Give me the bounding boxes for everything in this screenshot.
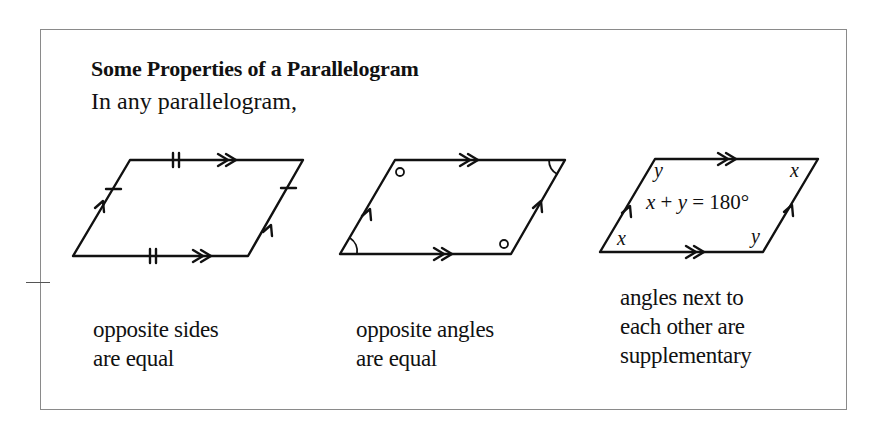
label-y-top-left: y: [652, 159, 663, 182]
label-y-bottom-right: y: [749, 225, 760, 248]
caption-line: supplementary: [620, 341, 752, 370]
caption-supplementary: angles next to each other are supplement…: [620, 283, 752, 370]
caption-line: opposite angles: [356, 315, 494, 344]
label-x-bottom-left: x: [616, 227, 626, 249]
caption-opposite-angles: opposite angles are equal: [356, 315, 494, 373]
parallelogram-angles-diagram: [340, 154, 565, 260]
equation-text: x + y = 180°: [645, 190, 749, 214]
caption-opposite-sides: opposite sides are equal: [93, 315, 219, 373]
caption-line: opposite sides: [93, 315, 219, 344]
caption-line: each other are: [620, 312, 752, 341]
label-x-top-right: x: [789, 159, 799, 181]
parallelogram-sides-diagram: [73, 153, 303, 263]
caption-line: are equal: [93, 344, 219, 373]
caption-line: angles next to: [620, 283, 752, 312]
caption-line: are equal: [356, 344, 494, 373]
